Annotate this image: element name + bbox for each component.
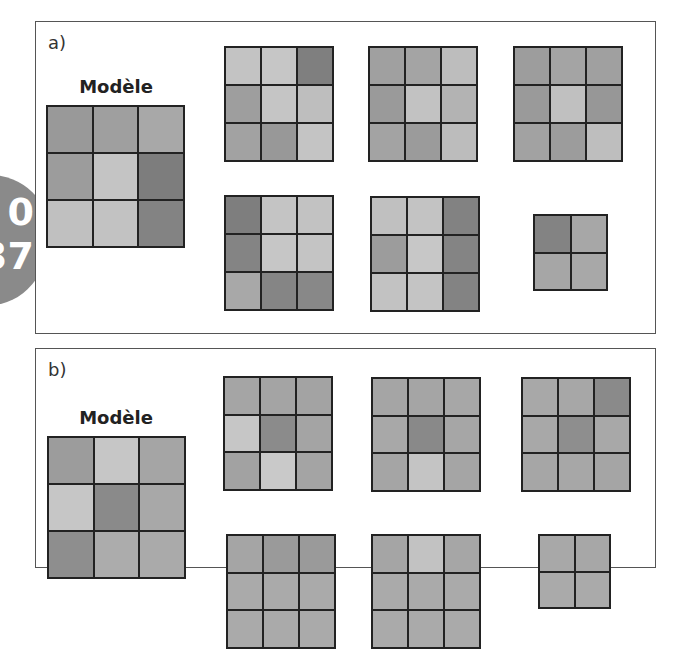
exercise-b-option-5-grid[interactable]	[371, 534, 481, 649]
grid-cell	[445, 574, 479, 610]
grid-cell	[139, 107, 183, 152]
grid-cell	[595, 417, 629, 453]
grid-cell	[559, 454, 593, 490]
grid-cell	[551, 48, 585, 84]
grid-cell	[373, 611, 407, 647]
grid-cell	[587, 48, 621, 84]
grid-cell	[408, 274, 442, 310]
grid-cell	[409, 379, 443, 415]
grid-cell	[225, 378, 259, 414]
exercise-a-option-5-grid[interactable]	[370, 196, 480, 312]
grid-cell	[523, 379, 557, 415]
grid-cell	[94, 201, 138, 246]
grid-cell	[576, 573, 610, 608]
grid-cell	[48, 154, 92, 199]
grid-cell	[409, 611, 443, 647]
grid-cell	[373, 536, 407, 572]
grid-cell	[445, 611, 479, 647]
grid-cell	[48, 201, 92, 246]
grid-cell	[262, 235, 296, 271]
grid-cell	[406, 124, 440, 160]
grid-cell	[445, 379, 479, 415]
grid-cell	[95, 438, 139, 483]
grid-cell	[49, 532, 93, 577]
grid-cell	[297, 378, 331, 414]
grid-cell	[559, 379, 593, 415]
grid-cell	[559, 417, 593, 453]
grid-cell	[408, 236, 442, 272]
grid-cell	[140, 532, 184, 577]
exercise-a-option-1-grid[interactable]	[224, 46, 334, 162]
grid-cell	[442, 124, 476, 160]
grid-cell	[445, 454, 479, 490]
grid-cell	[372, 198, 406, 234]
exercise-a-model-title: Modèle	[46, 76, 186, 97]
grid-cell	[48, 107, 92, 152]
grid-cell	[515, 86, 549, 122]
exercise-a-option-2-grid[interactable]	[368, 46, 478, 162]
grid-cell	[228, 536, 262, 572]
exercise-a-option-4-grid[interactable]	[224, 195, 334, 311]
exercise-b-option-2-grid[interactable]	[371, 377, 481, 492]
grid-cell	[444, 236, 478, 272]
grid-cell	[94, 154, 138, 199]
exercise-a-option-6-grid[interactable]	[533, 214, 608, 291]
exercise-b-model-grid[interactable]	[47, 436, 186, 579]
grid-cell	[139, 154, 183, 199]
exercise-a-model-grid[interactable]	[46, 105, 185, 248]
grid-cell	[262, 48, 296, 84]
grid-cell	[535, 254, 570, 290]
grid-cell	[515, 48, 549, 84]
grid-cell	[572, 216, 607, 252]
grid-cell	[372, 274, 406, 310]
exercise-a-option-3-grid[interactable]	[513, 46, 623, 162]
grid-cell	[262, 273, 296, 309]
grid-cell	[261, 416, 295, 452]
grid-cell	[595, 379, 629, 415]
grid-cell	[226, 124, 260, 160]
grid-cell	[576, 536, 610, 571]
exercise-b-label: b)	[48, 359, 66, 380]
grid-cell	[300, 536, 334, 572]
grid-cell	[370, 48, 404, 84]
exercise-b-option-6-grid[interactable]	[538, 534, 611, 609]
exercise-b-option-1-grid[interactable]	[223, 376, 333, 491]
grid-cell	[264, 611, 298, 647]
grid-cell	[226, 235, 260, 271]
grid-cell	[262, 124, 296, 160]
grid-cell	[226, 86, 260, 122]
exercise-a-label: a)	[48, 32, 66, 53]
grid-cell	[262, 86, 296, 122]
grid-cell	[535, 216, 570, 252]
grid-cell	[442, 48, 476, 84]
grid-cell	[297, 416, 331, 452]
grid-cell	[298, 86, 332, 122]
grid-cell	[442, 86, 476, 122]
grid-cell	[49, 438, 93, 483]
grid-cell	[370, 86, 404, 122]
grid-cell	[297, 453, 331, 489]
grid-cell	[226, 48, 260, 84]
grid-cell	[595, 454, 629, 490]
grid-cell	[409, 574, 443, 610]
grid-cell	[300, 574, 334, 610]
grid-cell	[373, 454, 407, 490]
grid-cell	[261, 453, 295, 489]
grid-cell	[444, 274, 478, 310]
grid-cell	[298, 235, 332, 271]
grid-cell	[300, 611, 334, 647]
grid-cell	[225, 416, 259, 452]
exercise-b-option-4-grid[interactable]	[226, 534, 336, 649]
grid-cell	[572, 254, 607, 290]
grid-cell	[523, 454, 557, 490]
exercise-b-option-3-grid[interactable]	[521, 377, 631, 492]
grid-cell	[140, 438, 184, 483]
grid-cell	[445, 536, 479, 572]
grid-cell	[140, 485, 184, 530]
grid-cell	[372, 236, 406, 272]
grid-cell	[264, 536, 298, 572]
grid-cell	[523, 417, 557, 453]
grid-cell	[95, 532, 139, 577]
badge-line-1: 0	[8, 193, 34, 231]
grid-cell	[409, 417, 443, 453]
